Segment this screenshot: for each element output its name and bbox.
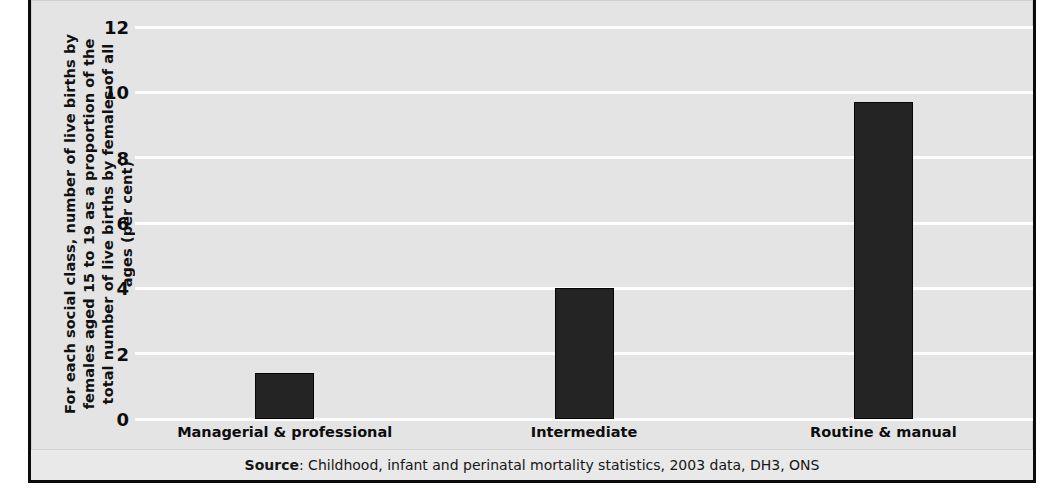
x-axis-category-labels: Managerial & professionalIntermediateRou… xyxy=(135,424,1033,448)
y-axis-tick-label: 12 xyxy=(89,17,129,38)
bar[interactable] xyxy=(854,102,913,419)
bar[interactable] xyxy=(555,288,614,419)
plot-area xyxy=(135,27,1033,419)
bar[interactable] xyxy=(255,373,314,419)
gridline xyxy=(135,26,1033,29)
y-axis-tick-label: 10 xyxy=(89,82,129,103)
y-axis-tick-labels: 024681012 xyxy=(79,27,129,419)
y-axis-tick-label: 2 xyxy=(89,343,129,364)
source-text: Source: Childhood, infant and perinatal … xyxy=(245,457,820,473)
x-axis-category-label: Managerial & professional xyxy=(177,424,392,440)
source-citation: : Childhood, infant and perinatal mortal… xyxy=(299,457,820,473)
x-axis-category-label: Intermediate xyxy=(531,424,637,440)
chart-figure: For each social class, number of live bi… xyxy=(28,0,1036,483)
gridline xyxy=(135,91,1033,94)
x-axis-category-label: Routine & manual xyxy=(810,424,957,440)
source-label: Source xyxy=(245,457,299,473)
y-axis-tick-label: 6 xyxy=(89,213,129,234)
y-axis-tick-label: 8 xyxy=(89,147,129,168)
source-band: Source: Childhood, infant and perinatal … xyxy=(31,449,1033,480)
y-axis-tick-label: 4 xyxy=(89,278,129,299)
y-axis-tick-label: 0 xyxy=(89,409,129,430)
